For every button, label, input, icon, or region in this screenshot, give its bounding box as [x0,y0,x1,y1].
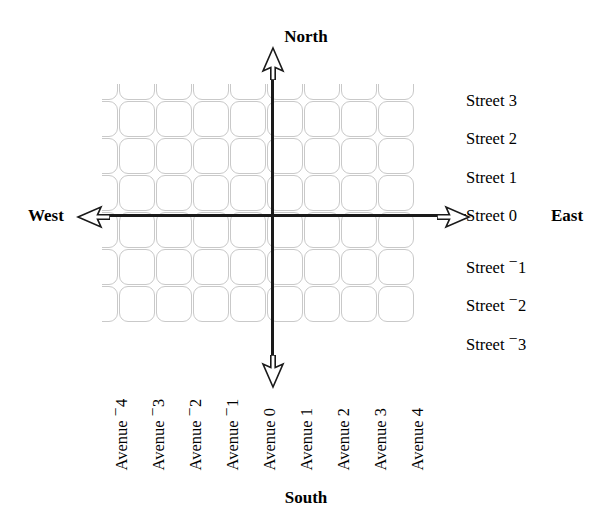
city-block [102,249,118,285]
city-block [341,212,377,248]
street-label-value: 2 [518,296,526,315]
compass-label-south: South [0,489,612,506]
street-label-negative-sign: − [509,291,518,308]
street-label-value: 1 [509,168,517,187]
city-block [119,249,155,285]
street-label-name: Street [466,168,505,187]
city-block [230,101,266,137]
city-block [378,175,414,211]
city-block [119,84,155,100]
street-label--3: Street −3 [466,331,526,353]
avenue-zero-axis [271,57,274,378]
avenue-label-name: Avenue [149,420,168,470]
city-block [341,286,377,322]
city-block [378,249,414,285]
avenue-label-negative-sign: − [144,407,161,416]
city-block [341,101,377,137]
city-block [378,212,414,248]
avenue-label-value: 0 [260,408,279,416]
street-label-name: Street [466,206,505,225]
avenue-label--2: Avenue −2 [182,398,204,470]
avenue-label-name: Avenue [223,420,242,470]
avenue-label-name: Avenue [297,420,316,470]
city-block [193,286,229,322]
city-block [304,101,340,137]
street-label-2: Street 2 [466,131,517,148]
street-label-0: Street 0 [466,208,517,225]
city-block [378,101,414,137]
avenue-label-0: Avenue 0 [262,408,279,470]
city-block [230,286,266,322]
city-block [156,249,192,285]
city-block [119,286,155,322]
street-label--2: Street −2 [466,292,526,314]
street-label-value: 3 [509,91,517,110]
avenue-label-value: 2 [186,398,205,406]
street-label--1: Street −1 [466,254,526,276]
west-arrow-icon [76,200,110,238]
avenue-label-name: Avenue [112,420,131,470]
city-block [156,286,192,322]
city-block [230,175,266,211]
avenue-label-value: 2 [334,408,353,416]
street-label-1: Street 1 [466,170,517,187]
street-zero-axis [85,214,466,217]
street-label-name: Street [466,91,505,110]
south-arrow-icon [256,355,290,393]
city-block [156,212,192,248]
avenue-label-name: Avenue [334,420,353,470]
avenue-label--3: Avenue −3 [145,398,167,470]
city-block [304,138,340,174]
avenue-label--4: Avenue −4 [108,398,130,470]
city-block [378,286,414,322]
avenue-label-negative-sign: − [107,407,124,416]
avenue-label-value: 3 [149,398,168,406]
city-block [193,101,229,137]
compass-label-north: North [0,28,612,45]
city-block [193,175,229,211]
city-block [193,249,229,285]
city-block [102,101,118,137]
city-block [119,212,155,248]
street-label-value: 3 [518,335,526,354]
avenue-label-name: Avenue [260,420,279,470]
city-block [341,84,377,100]
street-label-3: Street 3 [466,93,517,110]
city-block [193,84,229,100]
avenue-label-value: 4 [112,398,131,406]
avenue-label-value: 1 [297,408,316,416]
street-label-value: 0 [509,206,517,225]
city-block [119,175,155,211]
city-block [341,249,377,285]
street-label-name: Street [466,296,505,315]
city-block [102,84,118,100]
city-block [304,84,340,100]
city-block [193,138,229,174]
city-block [119,101,155,137]
city-block [156,175,192,211]
city-block [156,138,192,174]
city-block [304,175,340,211]
city-block [341,175,377,211]
avenue-label-value: 3 [371,408,390,416]
compass-label-west: West [28,207,64,224]
avenue-label-value: 1 [223,398,242,406]
city-grid-diagram: North South West East Street 3Street 2St… [0,0,612,528]
city-block [102,286,118,322]
street-label-name: Street [466,129,505,148]
avenue-label-value: 4 [408,408,427,416]
avenue-label-4: Avenue 4 [410,408,427,470]
avenue-label-2: Avenue 2 [336,408,353,470]
avenue-label--1: Avenue −1 [219,398,241,470]
city-block [156,84,192,100]
compass-label-east: East [551,207,583,224]
street-label-negative-sign: − [509,330,518,347]
city-block [119,138,155,174]
city-block [230,138,266,174]
city-block [193,212,229,248]
avenue-label-name: Avenue [408,420,427,470]
avenue-label-3: Avenue 3 [373,408,390,470]
street-label-name: Street [466,335,505,354]
avenue-label-name: Avenue [186,420,205,470]
city-block [378,84,414,100]
